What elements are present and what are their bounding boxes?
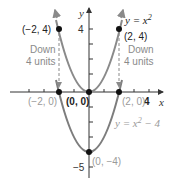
equation-original: y = x2	[124, 13, 152, 26]
y-tick-neg5: −5	[73, 162, 85, 173]
point-2-4	[116, 26, 122, 32]
x-axis-label: x	[158, 96, 164, 108]
down-label-right-line2: 4 units	[124, 56, 153, 67]
graph: y x 4 4 −5 (−2, 4) (2, 4) (−2, 0) (0, 0)…	[0, 0, 176, 184]
point-2-0	[116, 89, 122, 95]
label-neg2-0: (−2, 0)	[28, 96, 57, 107]
point-neg2-4	[56, 26, 62, 32]
label-origin: (0, 0)	[66, 96, 89, 107]
curve-arrow-left	[55, 10, 57, 18]
down-label-left-line2: 4 units	[26, 56, 55, 67]
label-neg2-4: (−2, 4)	[22, 24, 51, 35]
down-label-right-line1: Down	[128, 44, 154, 55]
point-neg2-0	[56, 89, 62, 95]
label-2-0: (2, 0)	[122, 96, 145, 107]
point-vertex	[86, 149, 92, 155]
y-axis-label: y	[78, 7, 84, 19]
point-origin	[86, 89, 92, 95]
y-tick-4: 4	[78, 24, 84, 35]
down-label-left-line1: Down	[30, 44, 56, 55]
label-2-4: (2, 4)	[124, 31, 147, 42]
curve-arrow-right	[121, 10, 123, 18]
label-vertex: (0, −4)	[92, 156, 121, 167]
equation-shifted: y = x2 − 4	[114, 116, 161, 129]
